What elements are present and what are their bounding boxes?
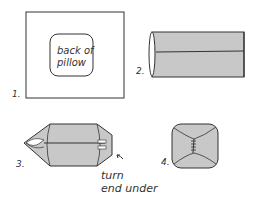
step-4-number: 4.: [161, 157, 170, 167]
back-of-label-line1: back of: [57, 46, 94, 56]
panel-4-finished-pillow: [172, 124, 218, 168]
pillow-label-line2: pillow: [57, 58, 86, 68]
step-3-number: 3.: [16, 159, 25, 169]
step-2-number: 2.: [136, 66, 145, 76]
panel-2-rolled-tube: [149, 32, 244, 77]
diagram-canvas: [0, 0, 253, 199]
turn-annotation-line1: turn: [101, 170, 124, 181]
end-under-annotation-line2: end under: [101, 183, 157, 194]
panel-3-ends-folded: [24, 124, 123, 166]
step-1-number: 1.: [12, 89, 21, 99]
